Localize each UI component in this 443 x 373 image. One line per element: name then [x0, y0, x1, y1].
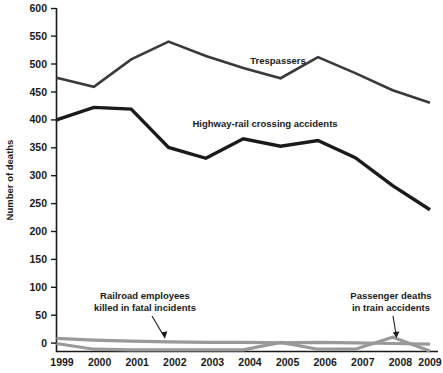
- x-tick-2008: 2008: [389, 356, 413, 368]
- annotation-railroad-employees-arrowhead: [161, 331, 167, 338]
- annotation-passenger-deaths-line2: in train accidents: [352, 302, 430, 313]
- y-tick-0: 0: [41, 337, 47, 349]
- chart-canvas: 600 550 500 450 400 350 300 250 200 150 …: [0, 0, 443, 373]
- y-tick-500: 500: [29, 58, 47, 70]
- x-tick-1999: 1999: [50, 356, 74, 368]
- y-axis-ticks: [51, 9, 57, 344]
- annotation-highway-rail: Highway-rail crossing accidents: [192, 118, 337, 129]
- x-tick-2007: 2007: [351, 356, 375, 368]
- x-tick-2002: 2002: [163, 356, 187, 368]
- y-axis-tick-labels: 600 550 500 450 400 350 300 250 200 150 …: [29, 2, 47, 349]
- line-chart: 600 550 500 450 400 350 300 250 200 150 …: [0, 0, 443, 373]
- y-tick-100: 100: [29, 281, 47, 293]
- y-tick-400: 400: [29, 113, 47, 125]
- annotation-passenger-deaths-line1: Passenger deaths: [350, 290, 431, 301]
- annotation-railroad-employees: Railroad employees killed in fatal incid…: [94, 290, 196, 338]
- y-axis-title: Number of deaths: [4, 140, 15, 221]
- annotation-trespassers: Trespassers: [250, 55, 305, 66]
- y-tick-600: 600: [29, 2, 47, 14]
- x-tick-2006: 2006: [314, 356, 338, 368]
- y-tick-450: 450: [29, 86, 47, 98]
- x-tick-2004: 2004: [238, 356, 262, 368]
- y-tick-300: 300: [29, 169, 47, 181]
- x-axis-tick-labels: 1999 2000 2001 2002 2003 2004 2005 2006 …: [50, 356, 442, 368]
- annotation-railroad-employees-line1: Railroad employees: [100, 290, 190, 301]
- y-tick-550: 550: [29, 30, 47, 42]
- y-tick-250: 250: [29, 197, 47, 209]
- series-line-trespassers: [57, 42, 431, 103]
- annotation-passenger-deaths-leader: [393, 316, 396, 334]
- annotation-passenger-deaths: Passenger deaths in train accidents: [350, 290, 431, 338]
- x-tick-2001: 2001: [126, 356, 150, 368]
- y-tick-350: 350: [29, 141, 47, 153]
- x-tick-2009: 2009: [418, 356, 442, 368]
- x-tick-2005: 2005: [276, 356, 300, 368]
- x-tick-2000: 2000: [88, 356, 112, 368]
- x-tick-2003: 2003: [201, 356, 225, 368]
- y-tick-200: 200: [29, 225, 47, 237]
- y-tick-150: 150: [29, 253, 47, 265]
- annotation-railroad-employees-line2: killed in fatal incidents: [94, 302, 196, 313]
- y-tick-50: 50: [35, 309, 47, 321]
